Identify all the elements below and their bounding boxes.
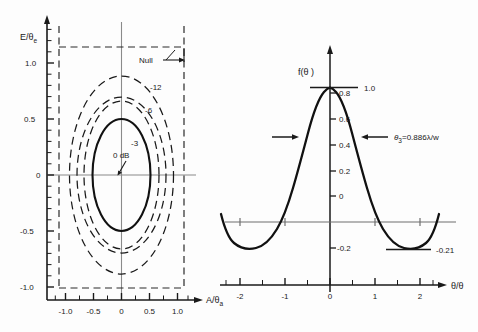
contour-panel: E/θe A/θa 1.0 0.5 0 -0.5 -1.0 -1.0 -0.5 … bbox=[0, 0, 240, 332]
left-y-axis-arrow bbox=[44, 15, 50, 24]
right-xtick-4: 1 bbox=[373, 292, 378, 301]
contour-label-0db: 0 dB bbox=[113, 151, 129, 160]
left-y-ticks bbox=[47, 29, 54, 287]
peak-value-label: 1.0 bbox=[364, 84, 376, 93]
left-y-ticklabels: 1.0 0.5 0 -0.5 -1.0 bbox=[20, 59, 41, 292]
right-x-axis-label: θ/θ bbox=[451, 281, 464, 291]
contour-label-minus3: -3 bbox=[131, 139, 139, 148]
left-xtick-2: -0.5 bbox=[87, 307, 101, 316]
left-ytick-4: -0.5 bbox=[20, 227, 34, 236]
right-ytick-06: 0.6 bbox=[339, 115, 351, 124]
left-ytick-2: 0.5 bbox=[24, 115, 36, 124]
right-x-ticks bbox=[226, 278, 433, 285]
left-xtick-5: 1.0 bbox=[172, 307, 184, 316]
sidelobe-value-label: -0.21 bbox=[436, 246, 455, 255]
right-x-ticklabels: -2 -1 0 1 2 bbox=[236, 292, 422, 301]
contour-label-minus6: -6 bbox=[145, 106, 153, 115]
left-x-ticks bbox=[55, 293, 188, 300]
right-y-ticklabels: 0.8 0.6 0.4 0.2 0 -0.2 bbox=[337, 89, 351, 253]
left-xtick-4: 0.5 bbox=[144, 307, 156, 316]
null-leader bbox=[163, 48, 185, 62]
left-xtick-1: -1.0 bbox=[59, 307, 73, 316]
left-ytick-1: 1.0 bbox=[25, 59, 37, 68]
right-xtick-3: 0 bbox=[328, 292, 333, 301]
left-ytick-3: 0 bbox=[36, 171, 41, 180]
beamwidth-callout: θ3=0.886λ/w bbox=[394, 133, 439, 144]
right-axes bbox=[220, 45, 456, 292]
left-x-ticklabels: -1.0 -0.5 0 0.5 1.0 bbox=[59, 307, 184, 316]
right-y-ticks bbox=[330, 93, 336, 248]
right-x-axis-arrow bbox=[438, 282, 447, 288]
right-xtick-1: -2 bbox=[236, 292, 244, 301]
right-ytick-m02: -0.2 bbox=[337, 244, 351, 253]
right-ytick-04: 0.4 bbox=[339, 141, 351, 150]
contour-label-minus12: -12 bbox=[150, 83, 162, 92]
null-label: Null bbox=[139, 56, 153, 65]
right-ytick-02: 0.2 bbox=[339, 167, 351, 176]
left-y-axis-label: E/θe bbox=[20, 32, 38, 44]
right-xtick-5: 2 bbox=[418, 292, 423, 301]
left-x-axis-arrow bbox=[194, 297, 203, 303]
right-ytick-08: 0.8 bbox=[339, 89, 351, 98]
technical-figure: E/θe A/θa 1.0 0.5 0 -0.5 -1.0 -1.0 -0.5 … bbox=[0, 0, 478, 332]
right-y-axis-arrow bbox=[327, 45, 333, 54]
right-y-axis-label: f(θ ) bbox=[298, 67, 314, 77]
right-ytick-00: 0 bbox=[339, 192, 344, 201]
left-xtick-3: 0 bbox=[119, 307, 124, 316]
right-xtick-2: -1 bbox=[281, 292, 289, 301]
left-ytick-5: -1.0 bbox=[20, 283, 34, 292]
beam-pattern-panel: 1.0 -0.21 θ3=0.886λ/w 0.8 0.6 0.4 0.2 0 … bbox=[218, 0, 478, 332]
